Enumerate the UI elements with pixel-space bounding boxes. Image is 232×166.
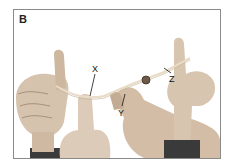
label-z: Z [169,74,175,84]
center-hand [60,94,111,158]
label-y: Y [118,108,124,118]
left-fist [16,50,69,158]
bead [142,76,150,84]
figure-frame: B [13,9,221,159]
label-x: X [92,64,98,74]
photo-illustration [14,10,220,158]
